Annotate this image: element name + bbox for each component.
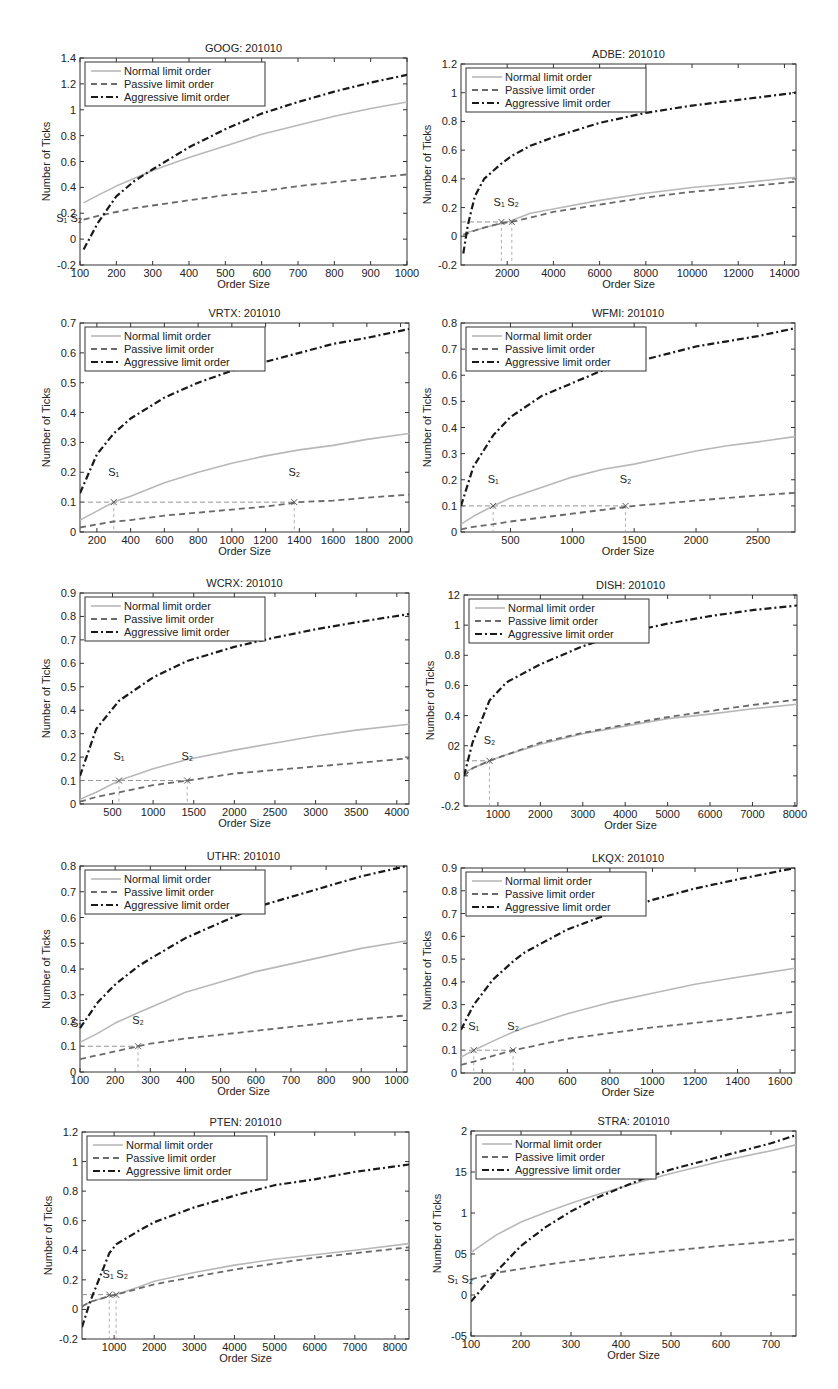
series-aggressive [82, 1165, 409, 1328]
chart-title: ADBE: 201010 [592, 48, 665, 60]
y-tick-label: 0.4 [442, 976, 457, 988]
y-tick-label: 0.2 [61, 466, 76, 478]
x-tick-label: 1000 [486, 808, 510, 820]
series-normal [464, 704, 797, 773]
legend-label: Passive limit order [124, 613, 214, 625]
x-tick-label: 700 [289, 267, 307, 279]
y-tick-label: 15 [455, 1166, 467, 1178]
legend: Normal limit orderPassive limit orderAgg… [85, 327, 265, 371]
chart-panel-pten: PTEN: 2010101000200030004000500060007000… [42, 1116, 409, 1364]
legend-label: Normal limit order [505, 875, 592, 887]
y-tick-label: 0.7 [442, 908, 457, 920]
x-tick-label: 1200 [683, 1075, 707, 1087]
chart-panel-vrtx: VRTX: 2010102004006008001000120014001600… [40, 307, 413, 557]
x-tick-label: 800 [189, 534, 207, 546]
x-tick-label: 1800 [355, 534, 379, 546]
y-tick-label: -0.2 [438, 259, 457, 271]
x-tick-label: 300 [562, 1338, 580, 1350]
x-tick-label: 200 [88, 534, 106, 546]
y-tick-label: 0 [451, 1067, 457, 1079]
x-tick-label: 3000 [303, 806, 327, 818]
y-tick-label: 0 [451, 526, 457, 538]
y-tick-label: 1 [454, 619, 460, 631]
x-tick-label: 700 [282, 1074, 300, 1086]
y-tick-label: 0.2 [442, 1021, 457, 1033]
x-tick-label: 1400 [725, 1075, 749, 1087]
legend-label: Aggressive limit order [505, 356, 611, 368]
y-tick-label: 0.3 [61, 436, 76, 448]
x-tick-label: 400 [180, 267, 198, 279]
chart-title: WFMI: 201010 [592, 307, 664, 319]
y-tick-label: 0.4 [61, 181, 76, 193]
y-axis-label: Number of Ticks [40, 929, 52, 1009]
y-axis-label: Number of Ticks [40, 658, 52, 738]
y-tick-label: 0 [70, 233, 76, 245]
y-tick-label: 0.2 [61, 751, 76, 763]
y-tick-label: 0.5 [61, 681, 76, 693]
x-tick-label: 1400 [287, 534, 311, 546]
legend-label: Passive limit order [505, 888, 595, 900]
marker-label: S₂ [484, 734, 496, 746]
y-tick-label: 1.2 [63, 1126, 78, 1138]
y-tick-label: 0.6 [442, 369, 457, 381]
x-tick-label: 1600 [321, 534, 345, 546]
marker-label: S₂ [620, 473, 632, 485]
y-tick-label: 0.3 [61, 989, 76, 1001]
x-tick-label: 1000 [141, 806, 165, 818]
legend-label: Normal limit order [505, 330, 592, 342]
series-passive [471, 1239, 796, 1279]
x-tick-label: 8000 [783, 808, 807, 820]
series-normal [84, 102, 407, 203]
y-tick-label: 0.5 [442, 953, 457, 965]
x-tick-label: 1500 [181, 806, 205, 818]
x-tick-label: 7000 [740, 808, 764, 820]
x-axis-label: Order Size [218, 545, 271, 557]
y-tick-label: 0.2 [442, 202, 457, 214]
x-tick-label: 400 [176, 1074, 194, 1086]
legend-label: Normal limit order [124, 330, 211, 342]
y-axis-label: Number of Ticks [431, 1193, 443, 1273]
y-tick-label: 0.9 [61, 587, 76, 599]
legend-label: Passive limit order [126, 1152, 216, 1164]
y-tick-label: 0.1 [61, 496, 76, 508]
x-axis-label: Order Size [602, 1086, 655, 1098]
x-tick-label: 200 [106, 1074, 124, 1086]
series-passive [464, 700, 797, 776]
y-axis-label: Number of Ticks [40, 387, 52, 467]
legend-label: Aggressive limit order [124, 899, 230, 911]
y-tick-label: -05 [451, 1330, 467, 1342]
y-tick-label: 0.4 [63, 1244, 78, 1256]
y-tick-label: 0.4 [445, 710, 460, 722]
y-axis-label: Number of Ticks [42, 1195, 54, 1275]
chart-panel-stra: STRA: 201010100200300400500600700-050051… [431, 1115, 796, 1361]
y-tick-label: 0.6 [442, 144, 457, 156]
y-tick-label: 0 [70, 1066, 76, 1078]
legend: Normal limit orderPassive limit orderAgg… [85, 62, 265, 106]
y-tick-label: 0.7 [61, 317, 76, 329]
marker-label: S₁ S₂ [447, 1273, 473, 1285]
x-tick-label: 2500 [746, 534, 770, 546]
marker-label: S₂ [507, 196, 519, 208]
chart-panel-uthr: UTHR: 2010101002003004005006007008009001… [40, 850, 409, 1097]
chart-title: GOOG: 201010 [205, 42, 282, 54]
y-tick-label: 1 [451, 87, 457, 99]
y-axis-label: Number of Ticks [421, 387, 433, 467]
y-tick-label: 0.2 [442, 474, 457, 486]
y-tick-label: 0.1 [442, 1044, 457, 1056]
legend-label: Normal limit order [505, 71, 592, 83]
chart-title: WCRX: 201010 [206, 577, 282, 589]
x-tick-label: 200 [512, 1338, 530, 1350]
legend-label: Passive limit order [505, 343, 595, 355]
y-tick-label: 0.5 [61, 937, 76, 949]
y-tick-label: 0.4 [442, 422, 457, 434]
y-tick-label: 0.6 [63, 1215, 78, 1227]
x-tick-label: 1000 [102, 1341, 126, 1353]
marker-label: S₂ [181, 750, 193, 762]
legend: Normal limit orderPassive limit orderAgg… [466, 872, 646, 916]
y-tick-label: -0.2 [441, 800, 460, 812]
chart-title: LKQX: 201010 [592, 852, 664, 864]
y-tick-label: 0 [70, 798, 76, 810]
x-tick-label: 3000 [182, 1341, 206, 1353]
y-tick-label: 0.4 [442, 173, 457, 185]
y-tick-label: 0.1 [61, 1040, 76, 1052]
